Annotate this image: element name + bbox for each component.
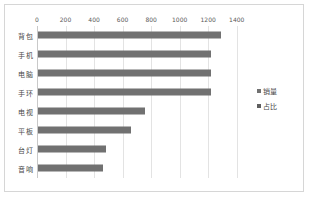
value-axis-tick-label: 600 — [117, 14, 128, 25]
gridline — [180, 26, 181, 178]
category-axis-label: 音响 — [18, 164, 33, 174]
gridline — [123, 26, 124, 178]
legend-label: 销量 — [263, 86, 278, 96]
value-axis-tick-label: 1400 — [229, 14, 244, 25]
value-axis-tick-label: 400 — [88, 14, 99, 25]
gridline — [237, 26, 238, 178]
legend-swatch-icon — [257, 89, 261, 93]
bar-sales[interactable] — [38, 164, 103, 171]
category-axis-label: 台灯 — [18, 145, 33, 155]
bar-sales[interactable] — [38, 107, 145, 114]
value-axis-tick-label: 1000 — [172, 14, 187, 25]
legend-swatch-icon — [257, 104, 261, 108]
plot-area — [37, 26, 251, 178]
gridline — [151, 26, 152, 178]
bar-sales[interactable] — [38, 50, 211, 57]
value-axis-tick-label: 200 — [60, 14, 71, 25]
category-axis-label: 电视 — [18, 107, 33, 117]
chart-legend[interactable]: 销量占比 — [257, 83, 303, 113]
gridline — [66, 26, 67, 178]
category-axis-label: 手环 — [18, 88, 33, 98]
category-axis-label: 手机 — [18, 50, 33, 60]
legend-entry-sales[interactable]: 销量 — [257, 83, 303, 98]
legend-label: 占比 — [263, 101, 278, 111]
value-axis: 0200400600800100012001400 — [37, 14, 251, 25]
legend-entry-ratio[interactable]: 占比 — [257, 98, 303, 113]
value-axis-tick-label: 0 — [35, 14, 39, 25]
bar-sales[interactable] — [38, 69, 211, 76]
value-axis-tick-label: 1200 — [201, 14, 216, 25]
gridline — [94, 26, 95, 178]
bar-sales[interactable] — [38, 126, 131, 133]
category-axis-label: 背包 — [18, 31, 33, 41]
category-axis-label: 平板 — [18, 126, 33, 136]
bar-sales[interactable] — [38, 31, 221, 38]
bar-sales[interactable] — [38, 145, 106, 152]
gridline — [208, 26, 209, 178]
chart-container[interactable]: 0200400600800100012001400 背包手机电脑手环电视平板台灯… — [4, 4, 304, 192]
category-axis: 背包手机电脑手环电视平板台灯音响 — [5, 26, 37, 178]
value-axis-tick-label: 800 — [145, 14, 156, 25]
bar-sales[interactable] — [38, 88, 211, 95]
value-axis-line — [37, 26, 38, 178]
category-axis-label: 电脑 — [18, 69, 33, 79]
